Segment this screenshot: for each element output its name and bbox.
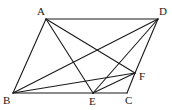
segment-af <box>46 19 135 73</box>
segment-df <box>135 19 158 73</box>
segment-ed <box>93 19 158 93</box>
point-label-a: A <box>37 5 45 17</box>
segments-group <box>13 19 158 93</box>
point-label-c: C <box>125 94 132 106</box>
point-label-f: F <box>139 70 145 82</box>
geometry-figure: ADBECF <box>0 0 172 110</box>
point-label-d: D <box>159 5 167 17</box>
segment-bf <box>13 73 135 93</box>
point-label-e: E <box>89 95 96 107</box>
point-label-b: B <box>3 94 10 106</box>
segment-ab <box>13 19 46 93</box>
